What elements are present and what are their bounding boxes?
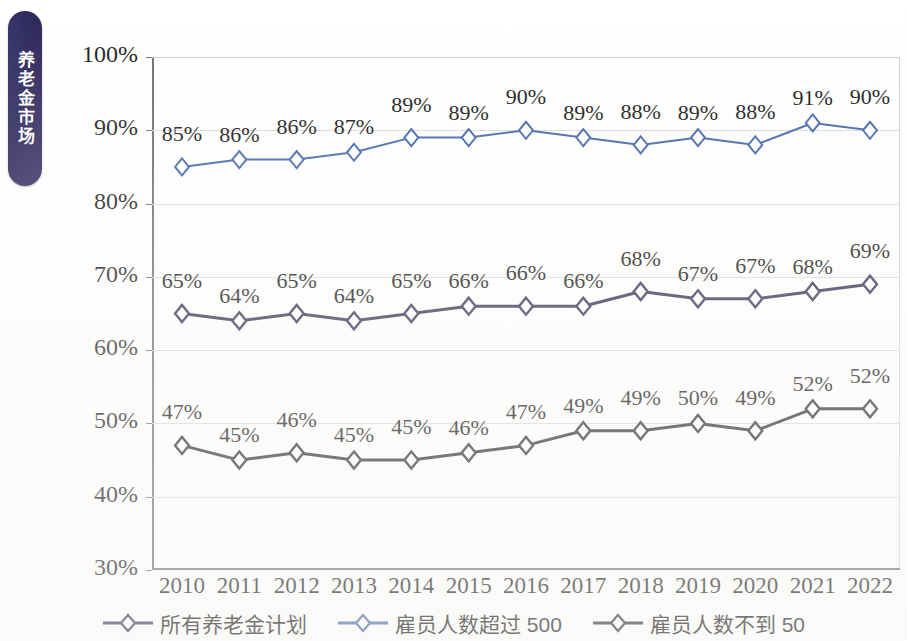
- gridline: [152, 57, 900, 58]
- legend-marker-icon: [592, 613, 644, 633]
- data-point-label: 52%: [835, 363, 905, 389]
- y-axis-tick-mark: [146, 570, 152, 571]
- y-axis-tick-mark: [146, 497, 152, 498]
- gridline: [152, 497, 900, 498]
- y-axis-tick-label: 50%: [52, 407, 138, 434]
- legend-marker-icon: [102, 613, 154, 633]
- legend-label: 雇员人数不到 50: [650, 608, 805, 638]
- legend-label: 所有养老金计划: [160, 608, 307, 638]
- legend-item[interactable]: 雇员人数超过 500: [337, 608, 562, 638]
- legend-label: 雇员人数超过 500: [395, 608, 562, 638]
- y-axis-tick-label: 30%: [52, 554, 138, 581]
- y-axis-tick-label: 90%: [52, 114, 138, 141]
- y-axis-tick-label: 80%: [52, 188, 138, 215]
- gridline: [152, 204, 900, 205]
- y-axis-tick-label: 100%: [52, 41, 138, 68]
- legend-item[interactable]: 所有养老金计划: [102, 608, 307, 638]
- gridline: [152, 570, 900, 571]
- data-point-label: 87%: [319, 114, 389, 140]
- data-point-label: 66%: [548, 268, 618, 294]
- data-point-label: 90%: [835, 84, 905, 110]
- line-chart: 100%90%80%70%60%50%40%30% 20102011201220…: [0, 0, 907, 641]
- y-axis-tick-mark: [146, 57, 152, 58]
- gridline: [152, 350, 900, 351]
- x-axis-tick-label: 2022: [830, 573, 907, 599]
- y-axis-tick-label: 70%: [52, 261, 138, 288]
- y-axis-tick-mark: [146, 204, 152, 205]
- y-axis-tick-label: 40%: [52, 481, 138, 508]
- chart-legend: 所有养老金计划雇员人数超过 500雇员人数不到 50: [0, 604, 907, 641]
- y-axis-tick-mark: [146, 350, 152, 351]
- legend-marker-icon: [337, 613, 389, 633]
- legend-item[interactable]: 雇员人数不到 50: [592, 608, 805, 638]
- y-axis-tick-label: 60%: [52, 334, 138, 361]
- data-point-label: 69%: [835, 238, 905, 264]
